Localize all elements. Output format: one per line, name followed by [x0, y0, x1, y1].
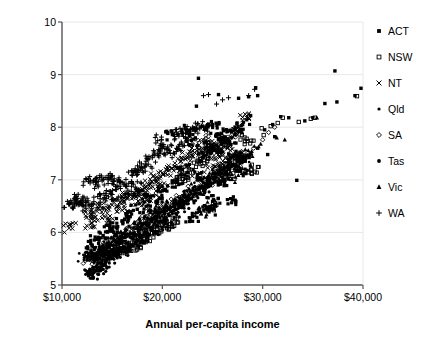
- data-point: [235, 122, 238, 125]
- data-point: [184, 220, 187, 223]
- data-point: [128, 249, 131, 252]
- data-point: [138, 211, 141, 214]
- data-point: [108, 262, 111, 265]
- data-point: [248, 161, 251, 164]
- y-tick-text: 9: [34, 70, 56, 80]
- data-point: [193, 181, 196, 184]
- data-point: [266, 130, 270, 134]
- data-point: [191, 212, 194, 215]
- data-point: [197, 220, 200, 223]
- data-point: [377, 107, 380, 110]
- data-point: [119, 256, 122, 259]
- x-tick-label: $10,000: [32, 291, 92, 303]
- data-point: [171, 186, 174, 189]
- data-point: [155, 225, 158, 228]
- data-point: [266, 153, 269, 156]
- data-point: [142, 208, 145, 211]
- data-point: [256, 94, 259, 97]
- data-point: [98, 257, 101, 260]
- data-point: [119, 229, 123, 233]
- x-tick-label: $30,000: [233, 291, 293, 303]
- data-point: [157, 233, 160, 236]
- data-point: [240, 124, 243, 127]
- data-point: [140, 238, 143, 241]
- data-point: [377, 29, 381, 33]
- legend-label: ACT: [388, 25, 409, 37]
- legend-item-sa[interactable]: SA: [372, 122, 425, 148]
- data-point: [104, 261, 107, 264]
- data-point: [170, 221, 173, 224]
- data-point: [83, 268, 86, 271]
- data-point: [283, 137, 287, 141]
- legend-label: Tas: [388, 155, 404, 167]
- data-point: [89, 234, 92, 237]
- data-point: [151, 226, 154, 229]
- data-point: [196, 196, 199, 199]
- data-point: [236, 173, 240, 177]
- data-point: [93, 261, 96, 264]
- legend-item-vic[interactable]: Vic: [372, 174, 425, 200]
- data-point: [335, 100, 338, 103]
- data-point: [224, 161, 227, 164]
- data-point: [303, 119, 306, 122]
- x-tick-label: $20,000: [132, 291, 192, 303]
- data-point: [112, 258, 115, 261]
- data-point: [164, 219, 167, 222]
- data-point: [91, 245, 94, 248]
- data-point: [103, 225, 106, 228]
- data-point: [377, 55, 381, 59]
- data-point: [178, 215, 181, 218]
- legend-item-tas[interactable]: Tas: [372, 148, 425, 174]
- legend-item-nt[interactable]: NT: [372, 70, 425, 96]
- legend-label: Vic: [388, 181, 402, 193]
- data-point: [218, 202, 221, 205]
- legend-item-qld[interactable]: Qld: [372, 96, 425, 122]
- legend-item-wa[interactable]: WA: [372, 200, 425, 226]
- data-point: [187, 207, 190, 210]
- legend-marker-small-dot-icon: [372, 102, 386, 116]
- legend-marker-cross-x-icon: [372, 76, 386, 90]
- chart-figure: Ecological footprint (ha/capita) 5678910…: [0, 0, 425, 345]
- data-point: [104, 257, 107, 260]
- data-point: [243, 147, 247, 151]
- data-point: [194, 192, 197, 195]
- data-point: [174, 212, 177, 215]
- data-point: [156, 230, 159, 233]
- legend-marker-triangle-icon: [372, 180, 386, 194]
- legend-item-act[interactable]: ACT: [372, 18, 425, 44]
- data-point: [258, 142, 262, 146]
- legend-label: NT: [388, 77, 402, 89]
- data-point: [234, 199, 237, 202]
- data-point: [86, 271, 89, 274]
- y-tick-text: 7: [34, 175, 56, 185]
- data-point: [237, 97, 240, 100]
- series-wa: [62, 87, 258, 214]
- y-tick-text: 6: [34, 227, 56, 237]
- data-point: [215, 122, 218, 125]
- data-point: [115, 222, 118, 225]
- y-tick-text: 10: [34, 17, 56, 27]
- data-point: [232, 195, 235, 198]
- data-point: [102, 264, 105, 267]
- data-point: [295, 179, 298, 182]
- legend-label: SA: [388, 129, 402, 141]
- data-point: [145, 231, 148, 234]
- data-point: [126, 242, 129, 245]
- data-point: [160, 225, 163, 228]
- data-point: [211, 126, 214, 129]
- data-point: [205, 200, 209, 204]
- data-point: [217, 197, 220, 200]
- y-tick-label: 6: [34, 227, 56, 237]
- data-point: [146, 240, 149, 243]
- data-point: [129, 226, 132, 229]
- y-tick-label: 10: [34, 17, 56, 27]
- legend-item-nsw[interactable]: NSW: [372, 44, 425, 70]
- data-point: [287, 116, 290, 119]
- data-point: [136, 244, 139, 247]
- data-point: [229, 197, 232, 200]
- data-point: [114, 251, 117, 254]
- data-point: [210, 194, 213, 197]
- data-point: [97, 236, 100, 239]
- data-point: [123, 251, 126, 254]
- data-point: [88, 268, 91, 271]
